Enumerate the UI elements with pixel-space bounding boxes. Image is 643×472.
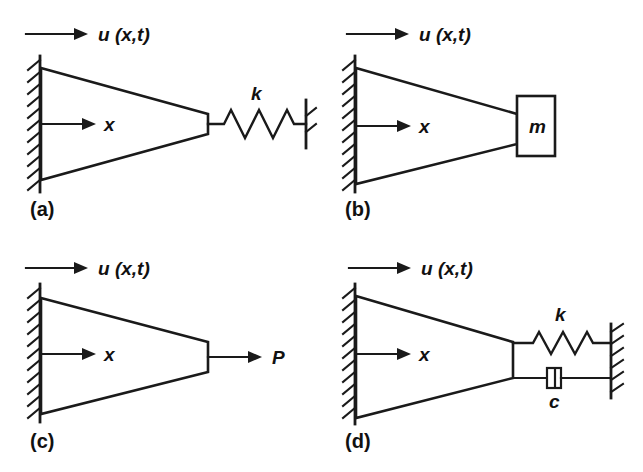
damper-coefficient-label: c	[549, 391, 560, 412]
x-axis-label: x	[418, 116, 431, 137]
spring-stiffness-label: k	[251, 83, 263, 104]
applied-force-arrow	[208, 351, 262, 363]
displacement-label: u (x,t)	[98, 24, 150, 45]
fixed-support-hatched-wall	[28, 284, 40, 422]
displacement-arrow	[26, 28, 88, 40]
displacement-label: u (x,t)	[419, 24, 471, 45]
spring-ground-anchor	[306, 100, 316, 148]
x-axis-arrow	[41, 348, 96, 360]
displacement-label: u (x,t)	[98, 258, 150, 279]
tapered-bar	[41, 298, 208, 414]
panel-caption: (d)	[345, 430, 371, 452]
panel-c: u (x,t) x	[0, 236, 321, 472]
panel-caption: (b)	[345, 198, 371, 220]
spring-stiffness-label: k	[555, 304, 567, 325]
x-axis-arrow	[356, 348, 411, 360]
figure-root: u (x,t)	[0, 0, 643, 472]
panel-a: u (x,t)	[0, 0, 321, 236]
panel-b: u (x,t) x	[321, 0, 642, 236]
panel-d: u (x,t) x	[321, 236, 642, 472]
applied-force-label: P	[272, 347, 285, 368]
panel-caption: (a)	[30, 198, 54, 220]
displacement-label: u (x,t)	[421, 258, 473, 279]
x-axis-label: x	[418, 344, 431, 365]
x-axis-arrow	[356, 120, 411, 132]
spring-element	[513, 332, 611, 354]
right-fixed-support-hatched-wall	[611, 324, 623, 398]
spring-element	[208, 110, 306, 138]
fixed-support-hatched-wall	[343, 284, 355, 424]
mass-label: m	[529, 116, 546, 137]
damper-element	[513, 368, 611, 388]
panel-caption: (c)	[30, 430, 54, 452]
x-axis-arrow	[41, 118, 96, 130]
fixed-support-hatched-wall	[343, 56, 355, 192]
x-axis-label: x	[103, 344, 116, 365]
x-axis-label: x	[103, 114, 116, 135]
tapered-bar	[356, 296, 513, 418]
displacement-arrow	[349, 262, 411, 274]
fixed-support-hatched-wall	[28, 56, 40, 192]
displacement-arrow	[347, 28, 409, 40]
displacement-arrow	[26, 262, 88, 274]
